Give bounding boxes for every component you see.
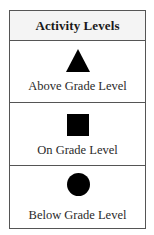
- legend-row-above-grade: Above Grade Level: [10, 41, 145, 103]
- legend-label-on-grade: On Grade Level: [10, 143, 145, 158]
- legend-header: Activity Levels: [10, 11, 145, 41]
- legend-title: Activity Levels: [35, 18, 119, 34]
- legend-label-above-grade: Above Grade Level: [10, 79, 145, 94]
- square-icon: [67, 114, 89, 136]
- activity-levels-legend: Activity Levels Above Grade Level On Gra…: [9, 10, 146, 229]
- legend-row-below-grade: Below Grade Level: [10, 166, 145, 228]
- triangle-icon: [66, 49, 90, 72]
- legend-row-on-grade: On Grade Level: [10, 103, 145, 166]
- circle-icon: [67, 173, 90, 196]
- legend-label-below-grade: Below Grade Level: [10, 208, 145, 223]
